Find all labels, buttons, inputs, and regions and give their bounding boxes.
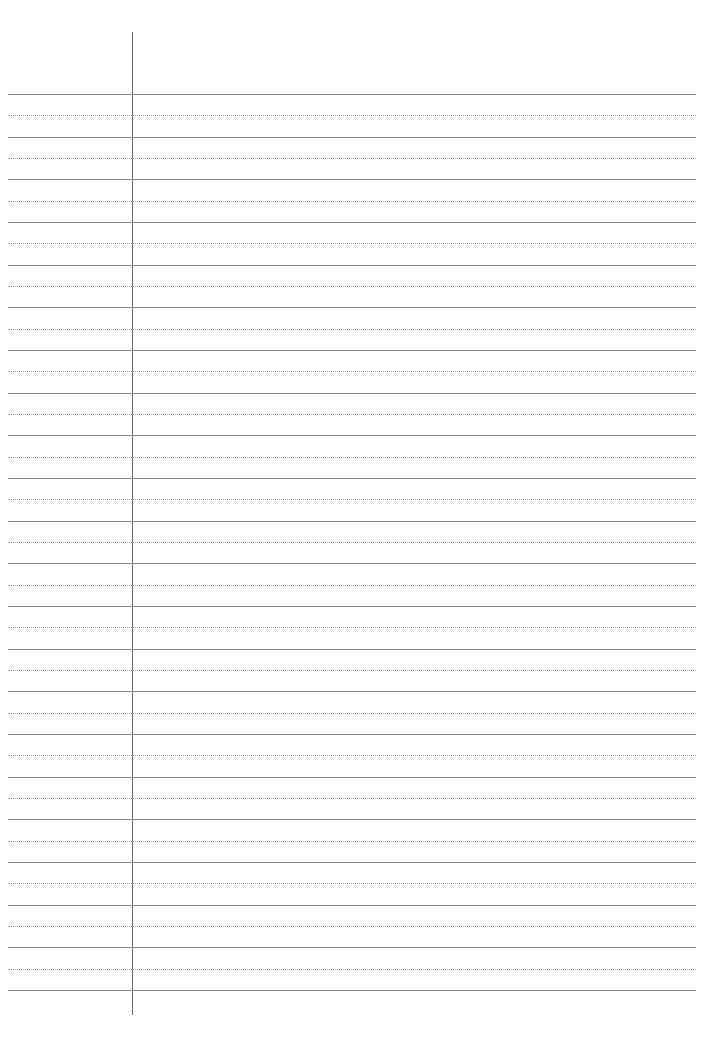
dotted-guide-line <box>8 798 696 799</box>
dotted-guide-line <box>8 457 696 458</box>
ruled-line <box>8 94 696 95</box>
dotted-guide-line <box>8 969 696 970</box>
ruled-line <box>8 350 696 351</box>
dotted-guide-line <box>8 158 696 159</box>
dotted-guide-line <box>8 841 696 842</box>
ruled-line <box>8 521 696 522</box>
ruled-line <box>8 435 696 436</box>
ruled-line <box>8 819 696 820</box>
dotted-guide-line <box>8 713 696 714</box>
ruled-line <box>8 734 696 735</box>
dotted-guide-line <box>8 243 696 244</box>
ruled-line <box>8 606 696 607</box>
ruled-line <box>8 137 696 138</box>
dotted-guide-line <box>8 755 696 756</box>
ruled-line <box>8 307 696 308</box>
dotted-guide-line <box>8 371 696 372</box>
ruled-line <box>8 563 696 564</box>
dotted-guide-line <box>8 499 696 500</box>
ruled-line <box>8 905 696 906</box>
ruled-line <box>8 990 696 991</box>
dotted-guide-line <box>8 414 696 415</box>
ruled-line <box>8 393 696 394</box>
dotted-guide-line <box>8 542 696 543</box>
ruled-line <box>8 947 696 948</box>
ruled-line <box>8 179 696 180</box>
dotted-guide-line <box>8 585 696 586</box>
ruled-line <box>8 777 696 778</box>
dotted-guide-line <box>8 115 696 116</box>
dotted-guide-line <box>8 201 696 202</box>
dotted-guide-line <box>8 627 696 628</box>
dotted-guide-line <box>8 329 696 330</box>
dotted-guide-line <box>8 286 696 287</box>
ruled-line <box>8 862 696 863</box>
ruled-line <box>8 691 696 692</box>
ruled-line <box>8 478 696 479</box>
ruled-line <box>8 265 696 266</box>
dotted-guide-line <box>8 926 696 927</box>
dotted-guide-line <box>8 670 696 671</box>
dotted-guide-line <box>8 883 696 884</box>
ruled-line <box>8 649 696 650</box>
ruled-line <box>8 222 696 223</box>
